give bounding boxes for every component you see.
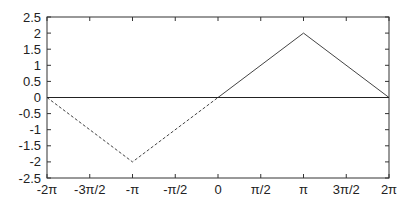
x-tick-label: -3π/2 [74, 182, 105, 197]
y-tick-label: -1.5 [19, 138, 41, 153]
plot-series [47, 33, 389, 162]
y-tick-label: 1 [34, 58, 41, 73]
solid-segment [218, 33, 389, 97]
y-tick-label: 2 [34, 26, 41, 41]
x-tick-label: 2π [381, 182, 397, 197]
y-tick-label: 0 [34, 90, 41, 105]
chart: 2.521.510.50-0.5-1-1.5-2-2.5 -2π-3π/2-π-… [0, 0, 412, 209]
x-tick-label: -π [126, 182, 139, 197]
y-tick-label: -2 [29, 154, 41, 169]
x-tick-label: π [299, 182, 308, 197]
dashed-segment [47, 98, 218, 162]
y-tick-label: -0.5 [19, 106, 41, 121]
x-tick-label: -2π [37, 182, 58, 197]
y-tick-label: 1.5 [23, 42, 41, 57]
x-tick-label: π/2 [251, 182, 271, 197]
x-tick-label: 3π/2 [333, 182, 360, 197]
y-tick-label: 2.5 [23, 10, 41, 25]
y-tick-label: -1 [29, 122, 41, 137]
y-tick-label: 0.5 [23, 74, 41, 89]
x-tick-label: 0 [214, 182, 221, 197]
x-tick-label: -π/2 [163, 182, 187, 197]
x-axis: -2π-3π/2-π-π/20π/2π3π/22π [37, 17, 397, 197]
